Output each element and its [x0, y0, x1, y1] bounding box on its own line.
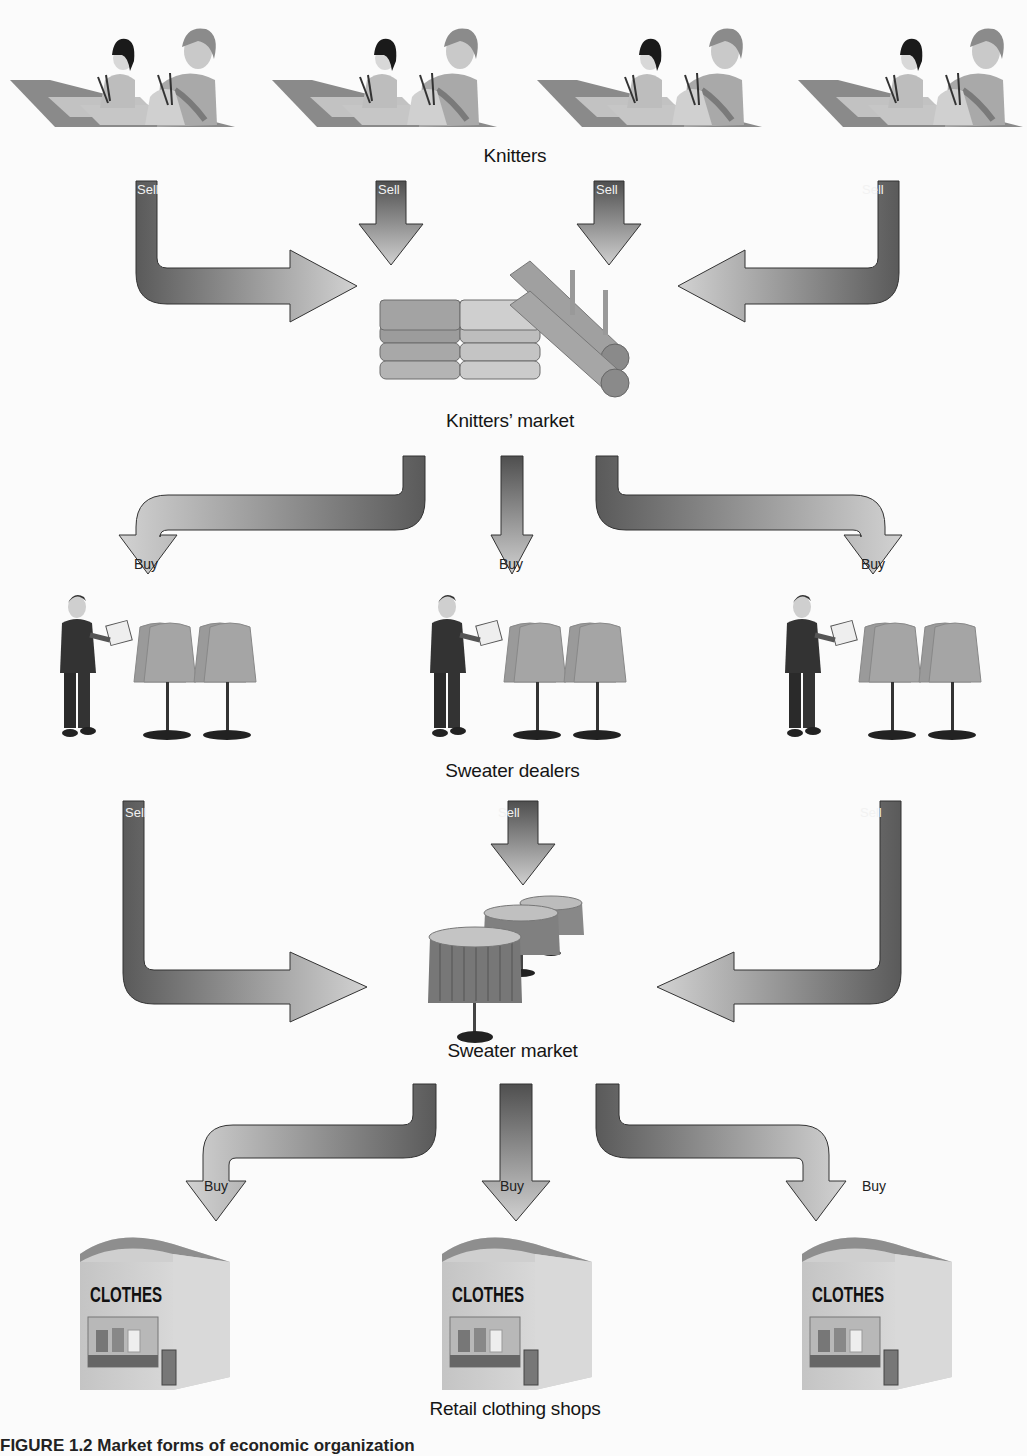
buy-tag: Buy	[500, 1178, 524, 1194]
sell-tag: Sell	[378, 182, 400, 197]
knitters-illustration	[10, 25, 235, 135]
shop-sign: CLOTHES	[452, 1282, 524, 1307]
knitters-illustration	[798, 25, 1023, 135]
sell-tag: Sell	[862, 182, 884, 197]
sweater-dealer-illustration	[420, 595, 620, 745]
label-knitters: Knitters	[440, 145, 590, 167]
sell-tag: Sell	[125, 805, 147, 820]
label-knitters-market: Knitters’ market	[410, 410, 610, 432]
label-sweater-market: Sweater market	[410, 1040, 615, 1062]
sweater-dealer-illustration	[775, 595, 975, 745]
buy-tag: Buy	[204, 1178, 228, 1194]
buy-arrow-left-curve	[118, 1083, 438, 1223]
buy-arrow-left-curve	[118, 455, 428, 575]
sell-tag: Sell	[860, 805, 882, 820]
sweater-market-illustration	[400, 895, 630, 1045]
buy-arrow-right-curve	[595, 455, 905, 575]
buy-arrow-right-curve	[595, 1083, 915, 1223]
clothing-shop-illustration: CLOTHES	[800, 1232, 960, 1392]
sweater-dealer-illustration	[50, 595, 250, 745]
sell-arrow-left-elbow	[135, 180, 360, 320]
sell-tag: Sell	[137, 182, 159, 197]
label-sweater-dealers: Sweater dealers	[410, 760, 615, 782]
shop-sign: CLOTHES	[812, 1282, 884, 1307]
knitters-illustration	[272, 25, 497, 135]
knitters-illustration	[537, 25, 762, 135]
sell-tag: Sell	[498, 805, 520, 820]
shop-sign: CLOTHES	[90, 1282, 162, 1307]
buy-arrow-down	[480, 1083, 552, 1223]
sell-arrow-right-elbow	[675, 180, 900, 325]
sell-arrow-left-elbow	[122, 800, 372, 1010]
buy-tag: Buy	[134, 556, 158, 572]
buy-tag: Buy	[499, 556, 523, 572]
sell-tag: Sell	[596, 182, 618, 197]
label-retail-shops: Retail clothing shops	[395, 1398, 635, 1420]
sell-arrow-right-elbow	[652, 800, 902, 1030]
figure-caption: FIGURE 1.2 Market forms of economic orga…	[0, 1436, 415, 1456]
buy-tag: Buy	[861, 556, 885, 572]
buy-tag: Buy	[862, 1178, 886, 1194]
clothing-shop-illustration: CLOTHES	[78, 1232, 238, 1392]
clothing-shop-illustration: CLOTHES	[440, 1232, 600, 1392]
knitters-market-illustration	[375, 255, 635, 405]
